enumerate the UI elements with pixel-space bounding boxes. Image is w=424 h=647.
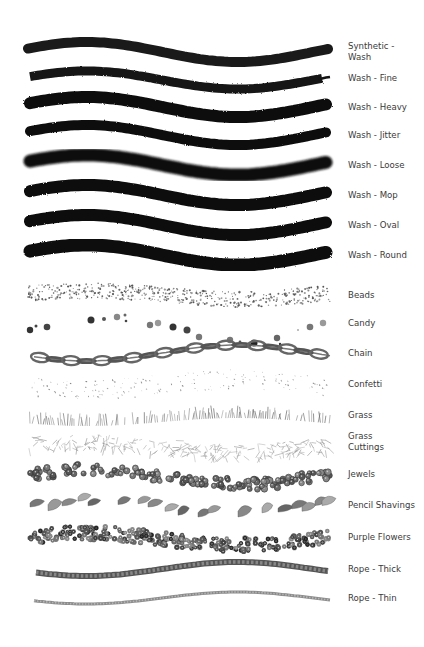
brush-label-wash-smooth: Synthetic - Wash — [348, 41, 424, 63]
brush-label-confetti: Confetti — [348, 379, 424, 390]
brush-stroke-purple-flowers — [27, 524, 331, 554]
brush-stroke-beads — [27, 282, 330, 308]
brush-stroke-wash-heavy — [30, 97, 326, 117]
brush-label-jewels: Jewels — [348, 469, 424, 480]
brush-stroke-wash-fine — [30, 71, 330, 89]
brush-stroke-wash-round — [30, 245, 326, 265]
brush-stroke-jewels — [28, 461, 333, 492]
brush-label-beads: Beads — [348, 290, 424, 301]
brush-stroke-candy — [27, 314, 326, 347]
brush-label-wash-oval: Wash - Oval — [348, 220, 424, 231]
brush-stroke-confetti — [32, 370, 328, 399]
brush-stroke-wash-loose — [30, 155, 326, 175]
brush-label-purple-flowers: Purple Flowers — [348, 532, 424, 543]
brush-stroke-wash-smooth — [28, 42, 328, 62]
brush-label-rope-thin: Rope - Thin — [348, 593, 424, 604]
brush-stroke-pencil-shavings — [30, 493, 336, 517]
brush-stroke-wash-mop — [30, 185, 326, 205]
brush-label-wash-heavy: Wash - Heavy — [348, 102, 424, 113]
brush-stroke-rope-thin — [34, 592, 330, 604]
brush-label-wash-loose: Wash - Loose — [348, 160, 424, 171]
brush-stroke-grass-cuttings — [29, 435, 334, 464]
brush-stroke-wash-oval — [30, 215, 326, 235]
brush-label-rope-thick: Rope - Thick — [348, 564, 424, 575]
brush-label-wash-fine: Wash - Fine — [348, 73, 424, 84]
brush-label-candy: Candy — [348, 318, 424, 329]
brush-stroke-grass — [30, 406, 331, 426]
brush-label-chain: Chain — [348, 348, 424, 359]
brush-label-pencil-shavings: Pencil Shavings — [348, 500, 424, 511]
brush-label-wash-jitter: Wash - Jitter — [348, 130, 424, 141]
brush-label-wash-mop: Wash - Mop — [348, 190, 424, 201]
brush-stroke-chain — [30, 340, 330, 365]
brush-label-grass-cuttings: Grass Cuttings — [348, 431, 424, 453]
brush-label-grass: Grass — [348, 410, 424, 421]
brush-stroke-rope-thick — [36, 562, 328, 576]
brush-stroke-wash-jitter — [30, 125, 326, 145]
brush-preview-sheet: Synthetic - WashWash - FineWash - HeavyW… — [0, 0, 424, 647]
brush-label-wash-round: Wash - Round — [348, 250, 424, 261]
